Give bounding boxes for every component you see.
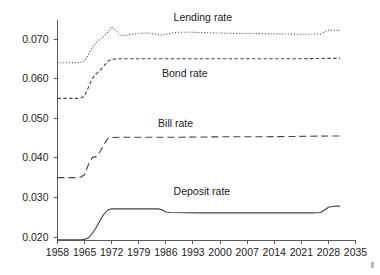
y-tick-label: 0.020: [22, 231, 48, 243]
y-tick-label: 0.030: [22, 191, 48, 203]
interest-rate-line-chart: 0.0200.0300.0400.0500.0600.070 195819651…: [0, 0, 380, 275]
x-tick-label: 2035: [344, 246, 368, 258]
series-line-bill-rate: [58, 136, 341, 178]
x-tick-label: 1979: [127, 246, 151, 258]
y-axis: 0.0200.0300.0400.0500.0600.070: [22, 20, 57, 243]
corner-artifact: [371, 262, 374, 268]
x-tick-label: 1958: [46, 246, 70, 258]
x-axis: 1958196519721979198619932000200720142021…: [46, 240, 368, 258]
series-line-lending-rate: [58, 27, 341, 63]
x-tick-label: 2007: [235, 246, 259, 258]
series-label-bond-rate: Bond rate: [162, 67, 208, 79]
x-tick-label: 1986: [154, 246, 178, 258]
series-annotation-labels: Lending rateBond rateBill rateDeposit ra…: [158, 11, 232, 196]
x-tick-label: 2014: [263, 246, 287, 258]
x-tick-label: 1965: [73, 246, 97, 258]
x-tick-label: 2000: [208, 246, 232, 258]
x-tick-label: 1972: [100, 246, 124, 258]
series-label-lending-rate: Lending rate: [174, 11, 233, 23]
series-line-deposit-rate: [58, 206, 341, 240]
x-tick-label: 1993: [181, 246, 205, 258]
y-tick-label: 0.050: [22, 112, 48, 124]
y-tick-label: 0.060: [22, 72, 48, 84]
series-label-deposit-rate: Deposit rate: [174, 185, 231, 197]
y-axis-ticks: 0.0200.0300.0400.0500.0600.070: [22, 33, 57, 243]
x-tick-label: 2028: [317, 246, 341, 258]
y-tick-label: 0.040: [22, 151, 48, 163]
chart-svg: 0.0200.0300.0400.0500.0600.070 195819651…: [0, 0, 380, 275]
y-tick-label: 0.070: [22, 33, 48, 45]
x-tick-label: 2021: [290, 246, 314, 258]
x-axis-ticks: 1958196519721979198619932000200720142021…: [46, 240, 368, 258]
series-label-bill-rate: Bill rate: [158, 117, 193, 129]
data-series-group: [58, 27, 341, 240]
